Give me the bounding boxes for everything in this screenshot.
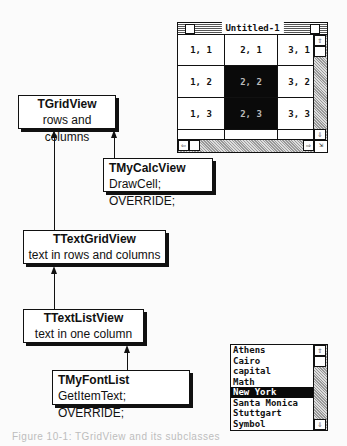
font-list: Athens Cairo capital Math New York Santa… <box>230 344 328 431</box>
grid-cell[interactable]: 1, 1 <box>178 35 225 66</box>
class-desc: text in one column <box>24 326 143 343</box>
arrowhead-icon <box>51 130 57 138</box>
class-tmycalcview: TMyCalcView DrawCell; OVERRIDE; <box>103 158 213 192</box>
class-name: TMyFontList <box>58 373 189 388</box>
class-name: TTextGridView <box>24 232 165 247</box>
list-item[interactable]: Symbol <box>231 419 313 430</box>
list-item-selected[interactable]: New York <box>231 387 313 398</box>
horizontal-scrollbar[interactable]: ⇦ ⇨ <box>178 139 314 152</box>
arrowhead-icon <box>111 130 117 138</box>
grid-cell[interactable]: 2, 1 <box>225 35 278 66</box>
calc-window: Untitled-1 1, 1 2, 1 3, 1 1, 2 2, 2 3, 2… <box>177 22 328 153</box>
grow-box-icon[interactable]: ⇲ <box>314 140 327 152</box>
class-name: TGridView <box>19 97 115 112</box>
scroll-thumb[interactable] <box>314 356 326 367</box>
scroll-down-arrow-icon[interactable]: ⇩ <box>314 419 326 430</box>
grid-cell-selected[interactable]: 2, 2 <box>225 66 278 98</box>
zoom-box-icon[interactable] <box>310 24 320 34</box>
grid-cell[interactable]: 1, 2 <box>178 66 225 98</box>
list-item[interactable]: Stuttgart <box>231 408 313 419</box>
window-title: Untitled-1 <box>221 22 283 34</box>
grid-cell[interactable]: 3, 2 <box>278 66 314 98</box>
figure-caption: Figure 10-1: TGridView and its subclasse… <box>12 431 220 442</box>
grid-cell[interactable]: 3, 1 <box>278 35 314 66</box>
class-name: TMyCalcView <box>109 161 212 176</box>
grid-cell-selected[interactable]: 2, 3 <box>225 98 278 130</box>
list-item[interactable]: Santa Monica <box>231 398 313 409</box>
close-box-icon[interactable] <box>185 24 195 34</box>
list-item[interactable]: Athens <box>231 345 313 356</box>
window-titlebar[interactable]: Untitled-1 <box>178 23 327 35</box>
class-desc: GetItemText; OVERRIDE; <box>58 388 189 422</box>
class-desc: rows and columns <box>19 112 115 146</box>
class-desc: text in rows and columns <box>24 247 165 264</box>
list-item[interactable]: Math <box>231 377 313 388</box>
class-ttextlistview: TTextListView text in one column <box>23 309 144 343</box>
class-desc: DrawCell; OVERRIDE; <box>109 176 212 210</box>
class-tgridview: TGridView rows and columns <box>18 95 116 129</box>
grid-cell[interactable]: 1, 3 <box>178 98 225 130</box>
vertical-scrollbar[interactable]: ⇧ ⇩ <box>313 35 327 140</box>
list-item[interactable]: Cairo <box>231 356 313 367</box>
grid-view: 1, 1 2, 1 3, 1 1, 2 2, 2 3, 2 1, 3 2, 3 … <box>178 35 312 140</box>
scroll-up-arrow-icon[interactable]: ⇧ <box>314 345 326 356</box>
edge-ttextlistview-ttextgridview <box>54 270 55 309</box>
arrowhead-icon <box>51 266 57 274</box>
scroll-down-arrow-icon[interactable]: ⇩ <box>314 129 326 140</box>
class-tmyfontlist: TMyFontList GetItemText; OVERRIDE; <box>52 370 190 405</box>
arrowhead-icon <box>124 345 130 353</box>
list-item[interactable]: capital <box>231 366 313 377</box>
class-ttextgridview: TTextGridView text in rows and columns <box>23 230 166 264</box>
scroll-thumb[interactable] <box>189 140 200 151</box>
scroll-left-arrow-icon[interactable]: ⇦ <box>178 140 189 151</box>
grid-cell[interactable]: 3, 3 <box>278 98 314 130</box>
list-scrollbar[interactable]: ⇧ ⇩ <box>313 345 327 430</box>
edge-ttextgridview-tgridview <box>54 134 55 230</box>
scroll-up-arrow-icon[interactable]: ⇧ <box>314 35 326 46</box>
scroll-thumb[interactable] <box>314 46 326 57</box>
class-name: TTextListView <box>24 311 143 326</box>
scroll-right-arrow-icon[interactable]: ⇨ <box>303 140 314 151</box>
